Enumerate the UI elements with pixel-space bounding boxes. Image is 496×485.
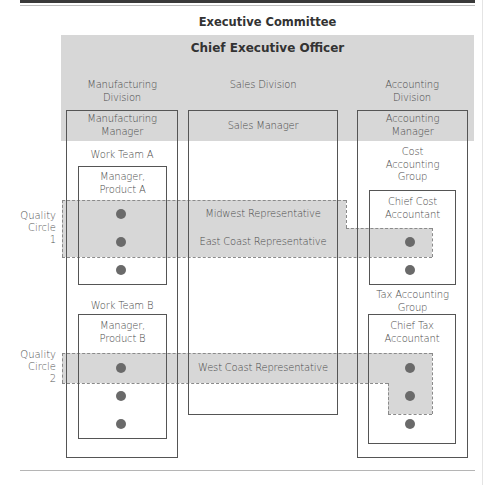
label-line: Sales Division [188,79,338,92]
cost-accounting-member-dot [405,237,415,247]
manager-product-b-label: Manager, Product B [78,320,167,345]
label-line: Chief Cost [369,196,456,209]
west-coast-representative-label: West Coast Representative [188,362,338,375]
manager-product-a-label: Manager, Product A [78,171,167,196]
work-team-a-label: Work Team A [66,149,178,162]
label-line: Product A [78,184,167,197]
team-b-member-dot [116,363,126,373]
label-line: Quality [10,349,56,361]
team-a-member-dot [116,237,126,247]
label-line: Circle [10,361,56,373]
chief-tax-accountant-label: Chief Tax Accountant [368,320,456,345]
label-line: Accounting [357,159,468,172]
accounting-division-label: Accounting Division [357,79,467,104]
sales-division-label: Sales Division [188,79,338,92]
top-hairline [20,5,475,6]
quality-circle-1-label: Quality Circle 1 [10,210,56,246]
label-line: Manufacturing [66,113,178,126]
label-line: 2 [10,373,56,385]
label-line: Accountant [368,333,456,346]
label-line: Manager [66,126,178,139]
label-line: Circle [10,222,56,234]
cost-accounting-group-label: Cost Accounting Group [357,146,468,184]
midwest-representative-label: Midwest Representative [188,208,338,221]
top-rule [20,0,475,3]
bottom-rule [20,470,475,471]
team-a-member-dot [116,265,126,275]
label-line: Manager, [78,320,167,333]
qc2-border [62,353,63,383]
page-edge-line [482,0,483,485]
accounting-manager-label: Accounting Manager [357,113,468,138]
tax-accounting-member-dot [405,391,415,401]
label-line: Group [357,171,468,184]
east-coast-representative-label: East Coast Representative [188,236,338,249]
work-team-b-label: Work Team B [66,300,178,313]
label-line: Manager, [78,171,167,184]
label-line: Manufacturing [66,79,178,92]
cost-accounting-member-dot [405,265,415,275]
label-line: Chief Tax [368,320,456,333]
label-line: Division [66,92,178,105]
team-a-member-dot [116,209,126,219]
label-line: Accounting [357,113,468,126]
tax-accounting-member-dot [405,363,415,373]
label-line: Division [357,92,467,105]
label-line: Cost [357,146,468,159]
chief-cost-accountant-label: Chief Cost Accountant [369,196,456,221]
label-line: Manager [357,126,468,139]
label-line: Group [357,302,468,315]
sales-manager-label: Sales Manager [188,120,338,133]
manufacturing-division-label: Manufacturing Division [66,79,178,104]
label-line: Accounting [357,79,467,92]
team-b-member-dot [116,391,126,401]
qc1-border [62,200,63,257]
label-line: Tax Accounting [357,289,468,302]
label-line: Accountant [369,209,456,222]
label-line: 1 [10,234,56,246]
quality-circle-2-label: Quality Circle 2 [10,349,56,385]
ceo-title: Chief Executive Officer [61,41,474,55]
label-line: Quality [10,210,56,222]
label-line: Product B [78,333,167,346]
team-b-member-dot [116,419,126,429]
executive-committee-title: Executive Committee [61,15,474,29]
tax-accounting-group-label: Tax Accounting Group [357,289,468,314]
qc1-border [346,200,347,228]
tax-accounting-member-dot [405,419,415,429]
manufacturing-manager-label: Manufacturing Manager [66,113,178,138]
